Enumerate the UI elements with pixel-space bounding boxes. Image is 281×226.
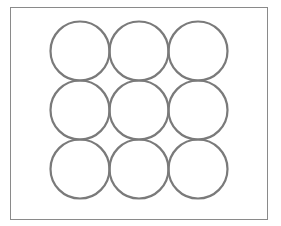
- circle-grid: [51, 22, 228, 199]
- circle-r3-c2: [110, 140, 169, 199]
- circle-r1-c3: [169, 22, 228, 81]
- circle-r3-c1: [51, 140, 110, 199]
- circle-r2-c1: [51, 81, 110, 140]
- circle-r2-c3: [169, 81, 228, 140]
- circle-r1-c2: [110, 22, 169, 81]
- circle-r1-c1: [51, 22, 110, 81]
- circle-r3-c3: [169, 140, 228, 199]
- diagram-frame: [11, 8, 268, 220]
- nine-circles-diagram: [0, 0, 281, 226]
- circle-r2-c2: [110, 81, 169, 140]
